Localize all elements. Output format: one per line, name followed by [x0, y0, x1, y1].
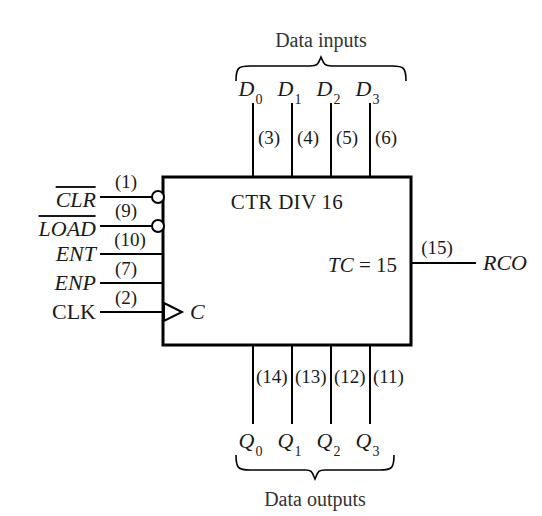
pin-number-q2: (12) — [334, 367, 366, 386]
signal-label-clr: CLR — [56, 186, 96, 211]
pin-number-d0: (3) — [258, 128, 280, 147]
pin-number-d1: (4) — [297, 128, 319, 147]
terminal-count-value: = 15 — [354, 253, 397, 277]
signal-label-ent: ENT — [56, 243, 96, 265]
pin-number-ent: (10) — [114, 230, 146, 249]
pin-number-clk: (2) — [115, 288, 137, 307]
data-inputs-caption: Data inputs — [275, 30, 367, 50]
port-label-q2: Q2 — [317, 430, 340, 456]
port-label-q3: Q3 — [356, 430, 379, 456]
pin-number-enp: (7) — [115, 259, 137, 278]
port-index-d1: 1 — [294, 92, 301, 107]
port-label-q1: Q1 — [278, 430, 301, 456]
signal-label-load: LOAD — [39, 215, 96, 240]
pin-number-q3: (11) — [373, 367, 404, 386]
device-title: CTR DIV 16 — [231, 192, 343, 213]
pin-number-d3: (6) — [375, 128, 397, 147]
data-outputs-caption: Data outputs — [264, 489, 366, 509]
port-label-d3: D3 — [356, 78, 379, 104]
pin-number-clr: (1) — [115, 172, 137, 191]
port-name-q3: Q — [356, 428, 372, 453]
port-index-q2: 2 — [333, 444, 340, 459]
port-index-d2: 2 — [333, 92, 340, 107]
pin-number-load: (9) — [115, 201, 137, 220]
signal-name-clr: CLR — [56, 186, 96, 211]
pin-number-q1: (13) — [295, 367, 327, 386]
pin-number-q0: (14) — [256, 367, 288, 386]
port-label-d2: D2 — [317, 78, 340, 104]
port-index-q1: 1 — [294, 444, 301, 459]
clock-input-label: C — [190, 301, 205, 323]
port-label-d0: D0 — [239, 78, 262, 104]
port-label-q0: Q0 — [239, 430, 262, 456]
logic-diagram-canvas: Data inputs Data outputs D0 D1 D2 D3 (3)… — [0, 0, 542, 516]
signal-label-clk: CLK — [52, 301, 96, 323]
inversion-bubble-clr — [152, 191, 164, 203]
signal-name-load: LOAD — [39, 215, 96, 240]
port-name-q0: Q — [239, 428, 255, 453]
pin-number-rco: (15) — [421, 238, 453, 257]
port-name-d0: D — [239, 76, 255, 101]
port-name-d1: D — [278, 76, 294, 101]
terminal-count-symbol: TC — [328, 253, 354, 277]
port-index-d0: 0 — [255, 92, 262, 107]
port-name-q1: Q — [278, 428, 294, 453]
port-index-d3: 3 — [372, 92, 379, 107]
port-name-d2: D — [317, 76, 333, 101]
signal-label-enp: ENP — [54, 272, 96, 294]
port-name-q2: Q — [317, 428, 333, 453]
signal-label-rco: RCO — [483, 252, 527, 274]
port-name-d3: D — [356, 76, 372, 101]
terminal-count-label: TC = 15 — [328, 255, 397, 276]
port-index-q0: 0 — [255, 444, 262, 459]
inversion-bubble-load — [152, 220, 164, 232]
port-label-d1: D1 — [278, 78, 301, 104]
pin-number-d2: (5) — [336, 128, 358, 147]
port-index-q3: 3 — [372, 444, 379, 459]
